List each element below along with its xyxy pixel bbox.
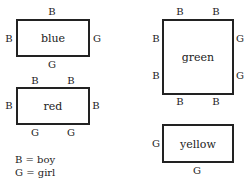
seat-green-right-2: G bbox=[235, 71, 245, 81]
table-red-box: red bbox=[16, 87, 90, 125]
seat-green-bottom-1: B bbox=[175, 97, 185, 107]
table-yellow-box: yellow bbox=[162, 124, 234, 163]
table-green-box: green bbox=[162, 19, 234, 95]
table-red-label: red bbox=[18, 100, 88, 113]
table-yellow-label: yellow bbox=[164, 137, 232, 150]
seat-green-bottom-2: B bbox=[211, 97, 221, 107]
table-green-label: green bbox=[164, 51, 232, 64]
legend-boy: B = boy bbox=[15, 153, 55, 166]
seat-green-left-1: B bbox=[151, 34, 161, 44]
seat-green-left-2: B bbox=[151, 71, 161, 81]
seat-blue-bottom-1: G bbox=[47, 60, 57, 70]
seat-blue-top-1: B bbox=[47, 7, 57, 17]
seat-red-left-1: B bbox=[4, 101, 14, 111]
table-blue-label: blue bbox=[18, 32, 88, 45]
seat-green-top-2: B bbox=[211, 7, 221, 17]
seat-blue-left-1: B bbox=[4, 34, 14, 44]
seat-red-bottom-2: G bbox=[66, 128, 76, 138]
seat-yellow-left-1: G bbox=[151, 139, 161, 149]
legend-girl: G = girl bbox=[15, 166, 55, 179]
seat-red-right-1: B bbox=[91, 101, 101, 111]
seat-yellow-bottom-1: G bbox=[192, 166, 202, 176]
seat-red-top-1: B bbox=[30, 76, 40, 86]
seat-green-top-1: B bbox=[175, 7, 185, 17]
seat-blue-right-1: G bbox=[92, 34, 102, 44]
seat-red-bottom-1: G bbox=[30, 128, 40, 138]
legend: B = boy G = girl bbox=[15, 153, 55, 179]
seat-green-right-1: G bbox=[235, 34, 245, 44]
table-blue-box: blue bbox=[16, 19, 90, 57]
seat-red-top-2: B bbox=[66, 76, 76, 86]
